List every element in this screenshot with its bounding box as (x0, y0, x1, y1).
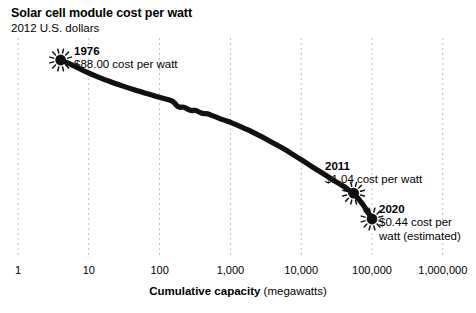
x-tick-label: 10 (83, 264, 95, 276)
x-tick-label: 1,000 (217, 264, 245, 276)
x-tick-label: 1 (15, 264, 21, 276)
annotation-1976-detail: $88.00 cost per watt (74, 58, 178, 71)
x-axis-title: Cumulative capacity (megawatts) (149, 285, 327, 297)
x-axis-title-strong: Cumulative capacity (149, 285, 260, 297)
annotation-2011-year: 2011 (325, 160, 422, 173)
x-tick-label: 10,000 (284, 264, 318, 276)
annotation-2011: 2011 $1.04 cost per watt (325, 160, 422, 187)
x-tick-label: 100,000 (352, 264, 392, 276)
annotation-2011-detail: $1.04 cost per watt (325, 173, 422, 186)
sunburst-marker-1976 (50, 49, 72, 71)
annotation-1976: 1976 $88.00 cost per watt (74, 45, 178, 72)
x-tick-label: 100 (150, 264, 168, 276)
x-axis-title-rest: (megawatts) (260, 285, 326, 297)
x-tick-label: 1,000,000 (418, 264, 467, 276)
annotation-2020-detail: $0.44 cost per watt (estimated) (379, 216, 471, 243)
solar-cost-chart: Solar cell module cost per watt 2012 U.S… (0, 0, 476, 313)
annotation-2020: 2020 $0.44 cost per watt (estimated) (379, 203, 471, 243)
annotation-2020-year: 2020 (379, 203, 471, 216)
annotation-1976-year: 1976 (74, 45, 178, 58)
cost-curve (61, 60, 372, 219)
